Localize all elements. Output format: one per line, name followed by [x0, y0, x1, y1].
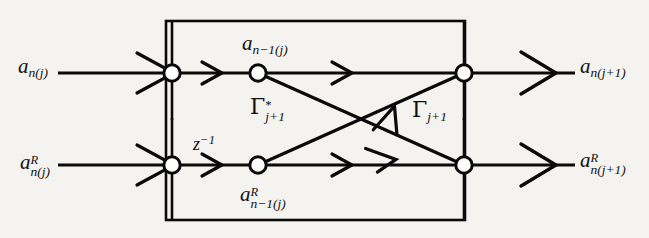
lattice-stage-figure: an(j) aRn(j) an(j+1) aRn(j+1) an−1(j) aR…: [0, 0, 649, 238]
label-input-forward: an(j): [18, 56, 48, 80]
node-tap-forward: [250, 65, 266, 81]
arrowhead-cross-down: [366, 147, 397, 172]
node-sum-forward-output: [456, 65, 472, 81]
label-delay-z-inverse: z−1: [193, 134, 215, 153]
node-sum-backward-output: [456, 157, 472, 173]
node-tap-backward: [250, 157, 266, 173]
label-inner-backward: aRn−1(j): [240, 184, 286, 210]
label-input-backward: aRn(j): [20, 152, 50, 178]
label-output-forward: an(j+1): [580, 56, 626, 80]
signal-flow-graph: [0, 0, 649, 238]
label-gamma: Γj+1: [412, 99, 447, 124]
label-gamma-conjugate: Γ*j+1: [250, 96, 285, 123]
node-sum-backward-input: [164, 157, 180, 173]
label-inner-forward: an−1(j): [242, 33, 288, 57]
node-sum-forward-input: [164, 65, 180, 81]
label-output-backward: aRn(j+1): [580, 150, 626, 176]
